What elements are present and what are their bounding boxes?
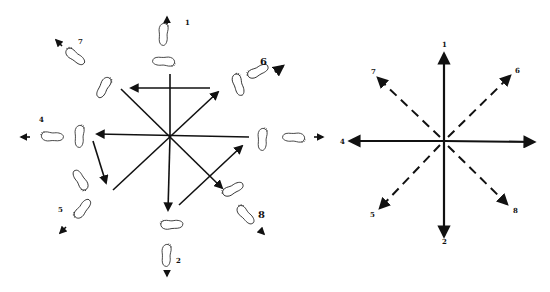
label-5: 5 — [58, 205, 63, 214]
label-r-2: 2 — [442, 237, 447, 246]
arrow-diag-se — [121, 89, 222, 188]
foot-icon-6a — [230, 72, 247, 97]
label-4: 4 — [39, 115, 44, 124]
figure-canvas: 1 7 4 6 8 2 5 1 7 6 4 5 8 2 — [0, 0, 550, 292]
arrow-small-ne — [275, 66, 283, 72]
dashed-arrow-8 — [448, 146, 507, 204]
label-1: 1 — [185, 18, 190, 27]
label-r-7: 7 — [371, 67, 376, 76]
label-r-6: 6 — [515, 66, 520, 75]
label-r-1: 1 — [442, 40, 447, 49]
arrow-small-nw — [56, 40, 62, 46]
arrow-diag-ne — [113, 92, 218, 190]
label-r-4: 4 — [340, 137, 345, 146]
foot-icon-8b — [234, 203, 257, 226]
label-r-5: 5 — [370, 210, 375, 219]
foot-icon-7b — [95, 75, 114, 100]
foot-icon-3a — [258, 128, 268, 151]
foot-icon-4b — [75, 125, 85, 148]
dashed-arrow-6 — [448, 76, 510, 137]
label-2: 2 — [176, 256, 181, 265]
arrow-right-3 — [444, 141, 534, 142]
label-7: 7 — [78, 37, 83, 46]
foot-icon-8a — [220, 179, 245, 199]
arrow-slant-down — [93, 141, 106, 183]
label-8: 8 — [258, 209, 265, 220]
label-6: 6 — [260, 56, 267, 67]
foot-icon-2a — [160, 218, 184, 230]
foot-icon-1b — [153, 57, 176, 67]
arrow-small-se — [260, 230, 264, 234]
foot-icon-2b — [162, 244, 172, 267]
foot-icon-3b — [283, 133, 306, 143]
label-r-8: 8 — [513, 206, 518, 215]
dashed-arrow-5 — [380, 145, 440, 208]
arrow-down — [168, 137, 170, 210]
foot-icon-4a — [41, 131, 64, 141]
left-diagram: 1 7 4 6 8 2 5 — [21, 17, 323, 276]
dashed-arrow-7 — [378, 78, 440, 137]
right-diagram: 1 7 6 4 5 8 2 — [340, 40, 534, 246]
foot-icon-1a — [159, 23, 169, 46]
foot-icon-7a — [63, 45, 87, 66]
arrow-small-sw — [60, 227, 66, 233]
foot-icon-5a — [70, 168, 91, 192]
foot-icon-5b — [71, 197, 92, 221]
